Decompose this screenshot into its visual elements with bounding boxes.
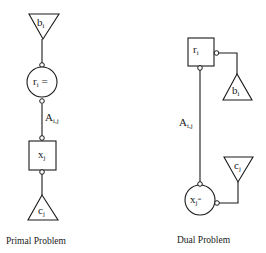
dual-diagram: ri bi Ai,j cj xj= Dual Problem [177,38,253,245]
primal-edge-label: Ai,j [45,111,59,125]
dual-x-node: xj= [185,182,219,215]
dual-b-node: bi [223,74,252,100]
diagram-canvas: bi ri = Ai,j xj cj Primal Problem [0,0,266,253]
dual-edge-label: Ai,j [179,116,193,130]
port-icon [198,66,203,71]
port-icon [40,99,45,104]
dual-r-node: ri [188,38,219,70]
port-icon [215,201,220,206]
primal-x-node: xj [29,136,56,175]
port-icon [40,136,45,141]
factor-graph-diagram: bi ri = Ai,j xj cj Primal Problem [0,0,266,253]
primal-b-node: bi [29,14,59,39]
dual-wire-x-c [219,182,238,203]
primal-diagram: bi ri = Ai,j xj cj Primal Problem [6,14,67,246]
dual-c-node: cj [224,157,253,182]
primal-caption: Primal Problem [6,236,67,246]
port-icon [40,170,45,175]
primal-r-node: ri = [27,63,57,104]
dual-caption: Dual Problem [177,235,231,245]
dual-wire-r-b [219,53,237,74]
square-node-icon [188,38,214,66]
primal-c-node: cj [28,195,58,220]
primal-r-label: ri = [33,75,48,89]
port-icon [214,51,219,56]
port-icon [198,182,203,187]
